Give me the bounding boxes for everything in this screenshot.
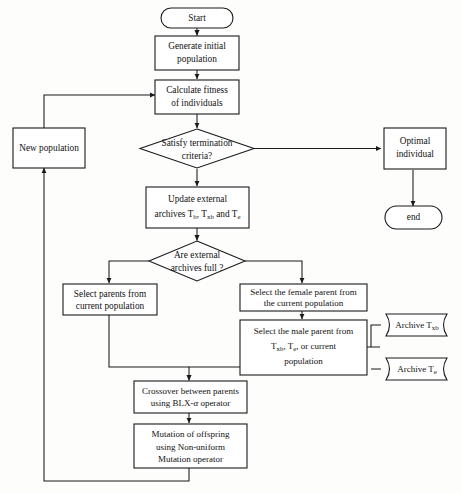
node-calculate-fitness: Calculate fitness of individuals [155,80,239,114]
node-update-external-archives: Update external archives Tb, Txb and Te [146,187,249,228]
mutation-line2: using Non-uniform [156,442,225,452]
archive-te-sub: e [434,367,437,374]
female-line2: the current population [264,298,344,308]
mutation-line1: Mutation of offspring [152,429,230,439]
node-archives-full: Are external archives full ? [149,241,245,281]
terminate-line2: criteria? [182,151,212,161]
update-line2-mid: , T [197,209,207,219]
crossover-line2-pre: using BLX- [151,398,194,408]
edge-archfull-female [245,261,302,283]
update-line1: Update external [168,194,228,204]
update-sub-e: e [237,213,240,220]
crossover-line2: using BLX-α operator [151,398,231,408]
mutation-line3: Mutation operator [158,454,223,464]
crossover-line1: Crossover between parents [142,386,239,396]
update-line2: archives Tb, Txb and Te [155,209,241,219]
node-select-parents: Select parents from current population [63,284,157,315]
node-crossover: Crossover between parents using BLX-α op… [134,381,247,413]
update-line2-pre: archives T [155,209,194,219]
archive-te-label: Archive Te [397,364,437,375]
edge-archfull-selparents [109,261,149,283]
node-archive-txb: Archive Txb [386,314,447,336]
archfull-line2: archives full ? [171,263,224,273]
node-start: Start [161,8,233,28]
node-end: end [385,206,442,229]
newpop-label: New population [19,143,79,153]
start-label: Start [188,13,206,23]
node-select-female-parent: Select the female parent from the curren… [240,284,367,311]
male-line2-mid: , T [283,341,293,351]
selparents-line1: Select parents from [74,289,147,299]
archfull-shape [149,241,245,281]
node-satisfy-termination: Satisfy termination criteria? [140,129,254,168]
node-mutation: Mutation of offspring using Non-uniform … [134,424,247,468]
male-line1: Select the male parent from [254,326,353,336]
archive-txb-sub: xb [432,323,439,330]
selparents-line2: current population [76,301,145,311]
crossover-line2-post: operator [198,398,230,408]
flowchart-canvas: Start Generate initial population Calcul… [0,0,461,493]
flowchart-diagram: Start Generate initial population Calcul… [0,0,461,493]
female-line1: Select the female parent from [250,287,356,297]
node-generate-initial-population: Generate initial population [155,36,239,70]
node-archive-te: Archive Te [386,358,447,380]
male-line3: population [284,356,323,366]
generate-line1: Generate initial [168,41,226,51]
edge-selparents-crossover [109,315,189,367]
fitness-line2: of individuals [171,98,223,108]
edge-newpopulation-fitness [44,95,155,129]
terminate-shape [140,129,254,168]
update-shape [146,187,249,228]
male-line2-post: , or current [296,341,336,351]
archive-txb-pre: Archive T [395,320,432,330]
node-select-male-parent: Select the male parent from Txb, Te, or … [240,320,367,375]
archfull-line1: Are external [174,250,221,260]
generate-line2: population [177,54,217,64]
optimal-line1: Optimal [400,136,431,146]
archive-te-pre: Archive T [397,364,434,374]
node-new-population: New population [13,128,85,168]
update-line2-mid2: and T [214,209,238,219]
end-label: end [407,212,421,222]
terminate-line1: Satisfy termination [161,138,232,148]
fitness-line1: Calculate fitness [166,85,228,95]
optimal-line2: individual [396,149,434,159]
node-optimal-individual: Optimal individual [384,128,446,169]
